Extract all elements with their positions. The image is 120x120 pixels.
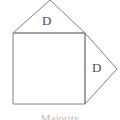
- geometry-figure: D D Majority: [0, 0, 120, 120]
- right-triangle-label: D: [92, 61, 101, 74]
- square-face: [13, 33, 85, 104]
- figure-canvas: [0, 0, 120, 120]
- figure-caption: Majority: [0, 112, 120, 120]
- top-triangle-label: D: [42, 14, 51, 27]
